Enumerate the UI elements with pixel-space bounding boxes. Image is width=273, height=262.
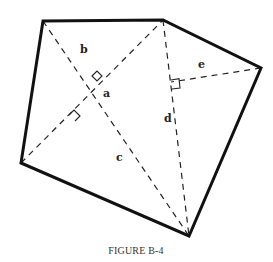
label-b: b <box>80 43 88 56</box>
figure-caption: FIGURE B-4 <box>108 245 164 256</box>
label-a: a <box>103 87 110 100</box>
pentagon-outline <box>21 20 261 236</box>
right-angle-mark-c <box>69 110 80 121</box>
label-c: c <box>116 151 123 164</box>
perpendicular-e <box>171 68 261 82</box>
diagonal-left-to-top-middle <box>21 20 163 163</box>
label-d: d <box>164 112 172 125</box>
label-e: e <box>198 58 205 71</box>
right-angle-mark-e <box>171 79 180 89</box>
right-angle-mark-center <box>92 71 102 81</box>
pentagon-diagram: b a c d e FIGURE B-4 <box>0 0 273 262</box>
